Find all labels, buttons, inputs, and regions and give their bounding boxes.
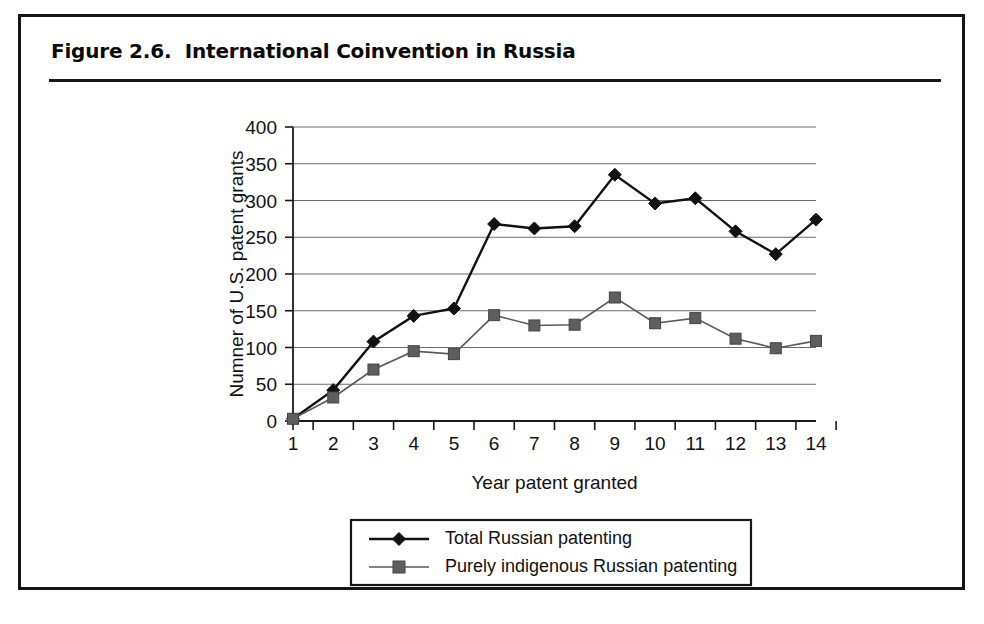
y-tick-label: 150 <box>245 301 277 322</box>
x-tick-label: 13 <box>765 433 786 454</box>
x-tick-label: 10 <box>645 433 666 454</box>
data-point-marker <box>730 333 741 344</box>
data-point-marker <box>811 335 822 346</box>
y-tick-label: 300 <box>245 191 277 212</box>
data-point-marker <box>489 310 500 321</box>
data-point-marker <box>407 309 420 322</box>
y-tick-marks <box>285 127 293 421</box>
x-tick-label: 2 <box>328 433 339 454</box>
chart-area: 050100150200250300350400 123456789101112… <box>21 17 962 587</box>
x-tick-label: 9 <box>610 433 621 454</box>
data-point-marker <box>328 392 339 403</box>
data-point-marker <box>650 318 661 329</box>
line-chart: 050100150200250300350400 123456789101112… <box>21 17 962 587</box>
data-point-marker <box>447 302 460 315</box>
x-tick-label: 4 <box>408 433 419 454</box>
data-point-marker <box>529 320 540 331</box>
y-tick-label: 100 <box>245 338 277 359</box>
data-point-marker <box>569 319 580 330</box>
y-tick-label: 350 <box>245 154 277 175</box>
data-point-marker <box>488 218 501 231</box>
x-tick-label: 12 <box>725 433 746 454</box>
x-tick-label: 6 <box>489 433 500 454</box>
x-tick-label: 14 <box>805 433 827 454</box>
data-point-marker <box>690 313 701 324</box>
y-tick-label: 250 <box>245 227 277 248</box>
legend-label: Purely indigenous Russian patenting <box>445 556 737 576</box>
y-tick-label: 0 <box>266 411 277 432</box>
figure-frame: Figure 2.6. International Coinvention in… <box>18 14 965 590</box>
y-axis-title: Numner of U.S. patent grants <box>226 150 247 397</box>
series-line-1 <box>293 175 816 419</box>
data-point-marker <box>770 343 781 354</box>
data-point-marker <box>528 222 541 235</box>
data-series-layer <box>287 168 823 425</box>
legend-label: Total Russian patenting <box>445 528 632 548</box>
x-axis-title: Year patent granted <box>471 472 637 493</box>
data-point-marker <box>448 349 459 360</box>
x-tick-labels: 1234567891011121314 <box>288 433 827 454</box>
x-tick-label: 8 <box>569 433 580 454</box>
x-tick-label: 1 <box>288 433 299 454</box>
data-point-marker <box>368 364 379 375</box>
x-tick-label: 11 <box>685 433 705 454</box>
legend-sample-marker <box>393 561 405 573</box>
chart-legend: Total Russian patentingPurely indigenous… <box>351 520 751 585</box>
x-tick-marks <box>293 421 836 430</box>
y-tick-label: 400 <box>245 117 277 138</box>
gridlines <box>293 127 816 421</box>
data-point-marker <box>288 413 299 424</box>
y-tick-labels: 050100150200250300350400 <box>245 117 277 432</box>
x-tick-label: 7 <box>529 433 540 454</box>
y-tick-label: 200 <box>245 264 277 285</box>
x-tick-label: 3 <box>368 433 379 454</box>
data-point-marker <box>609 292 620 303</box>
y-tick-label: 50 <box>256 374 277 395</box>
data-point-marker <box>408 346 419 357</box>
x-tick-label: 5 <box>449 433 460 454</box>
series-line-2 <box>293 298 816 419</box>
